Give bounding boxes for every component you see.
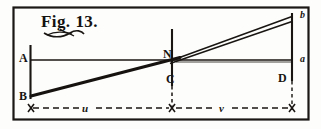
ray-incident-thick [31, 58, 180, 97]
ray-emergent-lower [170, 22, 292, 64]
ray-emergent-upper [170, 17, 292, 62]
figure-title-punct: . [66, 12, 71, 31]
label-dimension-v: v [219, 103, 224, 114]
label-point-c: C [166, 73, 175, 85]
dimension-tick-center [169, 104, 175, 112]
label-point-d: D [278, 72, 287, 84]
label-point-b-lower: b [300, 10, 305, 20]
label-point-a-upper: A [19, 52, 28, 64]
figure-container: Fig.13. A B N C D b a u v [0, 0, 321, 129]
figure-title: Fig.13. [41, 12, 98, 32]
figure-title-number: 13. [75, 12, 97, 32]
label-point-a-lower: a [300, 54, 305, 64]
label-point-n: N [163, 48, 172, 60]
dimension-tick-right [289, 104, 295, 112]
label-dimension-u: u [82, 103, 88, 114]
label-point-b-upper: B [19, 90, 27, 102]
figure-title-word: Fig [41, 12, 66, 32]
